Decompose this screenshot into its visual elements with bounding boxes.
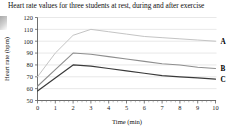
y-tick-label-100: 100 <box>23 38 33 45</box>
x-tick-label-10: 10 <box>212 104 218 111</box>
data-series-group <box>38 29 216 91</box>
x-tick-label-2: 2 <box>71 104 74 111</box>
y-tick-label-80: 80 <box>27 61 33 68</box>
x-tick-label-7: 7 <box>160 104 164 111</box>
x-tick-label-0: 0 <box>36 104 39 111</box>
x-tick-label-4: 4 <box>107 104 111 111</box>
series-line-C <box>38 65 216 91</box>
y-tick-label-70: 70 <box>27 73 33 80</box>
x-axis-tick-labels-group: 012345678910 <box>36 104 219 111</box>
y-axis-tick-labels-group: 5060708090100110120 <box>23 14 33 104</box>
x-axis-title: Time (min) <box>112 118 142 126</box>
y-tick-label-110: 110 <box>24 26 33 33</box>
x-tick-label-8: 8 <box>178 104 181 111</box>
y-tick-label-60: 60 <box>27 85 33 92</box>
line-chart-plot: 5060708090100110120 012345678910 ABC Tim… <box>0 0 238 126</box>
y-axis-title: Heart rate (bpm) <box>3 37 11 81</box>
chart-figure: Heart rate values for three students at … <box>0 0 238 126</box>
series-label-C: C <box>221 76 226 84</box>
x-tick-label-9: 9 <box>196 104 199 111</box>
y-tick-label-90: 90 <box>27 49 33 56</box>
series-label-B: B <box>221 65 226 73</box>
y-tick-label-50: 50 <box>27 97 33 104</box>
y-tick-label-120: 120 <box>23 14 33 21</box>
x-tick-label-5: 5 <box>125 104 128 111</box>
x-tick-label-3: 3 <box>89 104 92 111</box>
x-tick-label-1: 1 <box>54 104 57 111</box>
series-label-A: A <box>221 38 227 46</box>
series-labels-group: ABC <box>221 38 227 84</box>
x-tick-label-6: 6 <box>143 104 146 111</box>
series-line-B <box>38 53 216 86</box>
